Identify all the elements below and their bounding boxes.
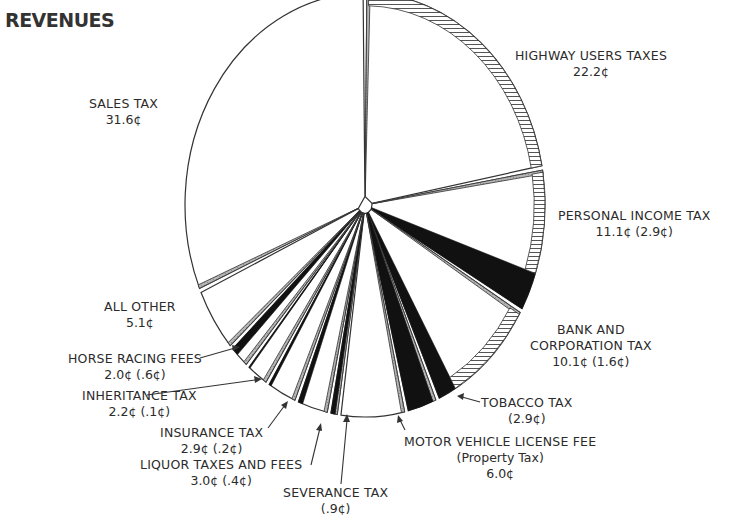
label-tobacco-tax: TOBACCO TAX (2.9¢) [481, 395, 573, 427]
label-liquor-taxes-fees: LIQUOR TAXES AND FEES 3.0¢ (.4¢) [140, 457, 302, 489]
label-personal-income-tax: PERSONAL INCOME TAX 11.1¢ (2.9¢) [558, 208, 711, 240]
label-highway-users-taxes: HIGHWAY USERS TAXES 22.2¢ [515, 48, 667, 80]
label-motor-vehicle-license-fee: MOTOR VEHICLE LICENSE FEE (Property Tax)… [404, 434, 596, 482]
pie-slices [185, 0, 545, 417]
label-insurance-tax: INSURANCE TAX 2.9¢ (.2¢) [160, 425, 263, 457]
label-sales-tax: SALES TAX 31.6¢ [89, 96, 158, 128]
label-inheritance-tax: INHERITANCE TAX 2.2¢ (.1¢) [82, 388, 197, 420]
label-bank-corporation-tax: BANK AND CORPORATION TAX 10.1¢ (1.6¢) [530, 322, 652, 370]
label-horse-racing-fees: HORSE RACING FEES 2.0¢ (.6¢) [68, 351, 202, 383]
label-severance-tax: SEVERANCE TAX (.9¢) [283, 485, 388, 517]
label-all-other: ALL OTHER 5.1¢ [104, 299, 176, 331]
